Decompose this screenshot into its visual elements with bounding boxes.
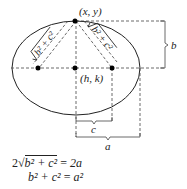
brace-c-label: c <box>91 123 96 135</box>
sqrt-symbol: √ <box>18 156 25 170</box>
brace-a-label: a <box>105 140 111 152</box>
equation-2: b² + c² = a² <box>28 170 83 185</box>
brace-b-label: b <box>171 39 177 51</box>
svg-text:b² + c²: b² + c² <box>90 24 116 53</box>
center-point <box>73 66 78 71</box>
eq1-equals: = <box>60 156 67 170</box>
vertex-label: (x, y) <box>79 5 102 18</box>
brace-b <box>160 21 168 68</box>
focus-left-point <box>36 66 41 71</box>
left-distance-label: b² + c² <box>28 27 59 62</box>
eq2-rhs: a² <box>73 170 83 184</box>
vertex-point <box>73 19 78 24</box>
eq1-rhs: 2a <box>70 156 82 170</box>
center-label: (h, k) <box>80 72 104 85</box>
svg-text:b² + c²: b² + c² <box>32 28 58 57</box>
eq2-lhs: b² + c² <box>28 170 61 184</box>
eq1-radicand: b² + c² <box>25 155 58 170</box>
brace-a <box>76 133 140 140</box>
eq2-equals: = <box>64 170 71 184</box>
equation-1: 2√b² + c² = 2a <box>12 156 82 171</box>
focus-right-point <box>110 66 115 71</box>
